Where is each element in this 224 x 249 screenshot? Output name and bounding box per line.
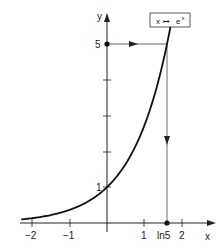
y-tick-label: 5: [95, 39, 101, 50]
x-tick-labels: −2 −1 1 2 ln5 x: [25, 230, 210, 242]
ln5-label: ln5: [157, 230, 171, 241]
x-tick-label: 2: [179, 230, 185, 241]
x-tick-label: −2: [25, 230, 37, 241]
y-axis-label: y: [97, 11, 102, 22]
exponential-chart: x ↦ e x −2 −1 1 2 ln5 x 1 5 y: [0, 0, 224, 249]
x-axis-arrow-icon: [207, 220, 216, 226]
function-label-lhs: x: [156, 17, 160, 26]
down-arrow-icon: [164, 136, 170, 145]
y-axis-arrow-icon: [104, 13, 110, 22]
function-label-exp: x: [182, 15, 185, 21]
point-ln5: [164, 220, 169, 225]
x-tick-label: 1: [141, 230, 147, 241]
x-axis-label: x: [205, 231, 210, 242]
point-y5: [104, 41, 109, 46]
x-tick-label: −1: [63, 230, 75, 241]
ln5-guide-lines: [104, 41, 170, 226]
function-label-base: e: [176, 17, 181, 26]
x-axis: [20, 220, 216, 226]
function-label-arrow: ↦: [163, 17, 170, 26]
function-label-box: x ↦ e x: [150, 13, 190, 27]
right-arrow-icon: [129, 41, 138, 47]
y-tick-labels: 1 5 y: [95, 11, 102, 193]
